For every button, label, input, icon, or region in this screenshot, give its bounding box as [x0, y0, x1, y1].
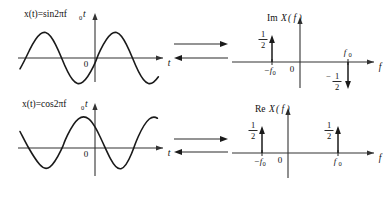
imag-freq-axis-label: f — [379, 62, 383, 72]
imag-value-positive-numerator: 1 — [335, 71, 339, 81]
imag-tick-label-positive-main: f — [344, 47, 348, 57]
imag-impulse-positive-arrowhead — [345, 81, 351, 89]
cosine-function-label-main: x(t)=cos2πf — [22, 99, 67, 110]
sine-origin-label: 0 — [84, 59, 89, 69]
real-origin-label: 0 — [278, 155, 283, 165]
inverse-transform-bottom-arrowhead — [174, 149, 182, 155]
real-function-label-argument: ( f ) — [276, 104, 290, 115]
imag-function-label: Im X ( f ) — [267, 13, 302, 24]
sine-function-label-main: x(t)=sin2πf — [24, 9, 68, 20]
fourier-transform-pair-figure: 0 t x(t)=sin2πf 0 t — [0, 0, 388, 202]
real-impulse-negative-arrowhead — [259, 126, 265, 134]
sine-function-label-tail: t — [83, 9, 86, 19]
real-function-label-variable: X — [268, 104, 276, 114]
sine-time-axis-arrowhead — [156, 55, 163, 60]
cosine-function-label-tail: t — [85, 99, 88, 109]
sine-amplitude-axis-arrowhead — [92, 13, 97, 20]
imaginary-spectrum-panel: 1 2 − 1 2 −f 0 f 0 0 f — [232, 13, 383, 92]
cosine-amplitude-axis-arrowhead — [92, 103, 97, 110]
imag-tick-label-positive: f 0 — [344, 47, 352, 58]
imag-impulse-negative-arrowhead — [269, 35, 275, 43]
real-function-label: Re X ( f ) — [255, 104, 290, 115]
cosine-waveform — [20, 117, 157, 169]
sine-function-label: x(t)=sin2πf 0 t — [24, 9, 86, 21]
forward-transform-top-arrowhead — [220, 41, 228, 47]
imag-tick-label-positive-subscript: 0 — [348, 51, 351, 58]
real-freq-axis-arrowhead — [367, 150, 374, 155]
top-transform-relation — [174, 41, 228, 61]
imag-function-label-prefix: Im — [267, 13, 278, 23]
real-freq-axis-label: f — [379, 153, 383, 163]
sine-time-axis-label: t — [168, 58, 171, 68]
real-tick-label-negative-subscript: 0 — [262, 160, 265, 167]
imag-value-positive-sign: − — [326, 71, 331, 81]
real-value-positive-numerator: 1 — [327, 120, 331, 130]
real-value-positive-denominator: 2 — [327, 131, 331, 141]
imag-value-negative-denominator: 2 — [261, 40, 265, 50]
bottom-transform-relation — [174, 136, 228, 155]
imag-origin-label: 0 — [290, 64, 295, 74]
real-tick-label-positive-subscript: 0 — [338, 160, 341, 167]
real-value-negative-half: 1 2 — [249, 120, 258, 141]
cosine-function-label: x(t)=cos2πf 0 t — [22, 99, 88, 111]
real-value-positive-half: 1 2 — [325, 120, 334, 141]
real-spectrum-panel: 1 2 1 2 −f 0 f 0 0 f — [232, 104, 383, 178]
imag-freq-axis-arrowhead — [367, 59, 374, 64]
real-tick-label-positive: f 0 — [334, 156, 342, 167]
cosine-time-domain-panel: 0 t x(t)=cos2πf 0 t — [18, 99, 171, 176]
imag-value-positive-denominator: 2 — [335, 82, 339, 92]
imag-value-negative-half: 1 2 — [259, 29, 268, 50]
inverse-transform-top-arrowhead — [174, 55, 182, 61]
imag-function-label-argument: ( f ) — [288, 13, 302, 24]
real-tick-label-positive-main: f — [334, 156, 338, 166]
cosine-time-axis-arrowhead — [156, 145, 163, 150]
imag-function-label-variable: X — [280, 13, 288, 23]
real-value-negative-denominator: 2 — [251, 131, 255, 141]
real-tick-label-negative: −f 0 — [254, 156, 266, 167]
sine-time-domain-panel: 0 t x(t)=sin2πf 0 t — [18, 9, 171, 84]
imag-tick-label-negative-subscript: 0 — [272, 69, 275, 76]
real-impulse-positive-arrowhead — [335, 126, 341, 134]
real-value-negative-numerator: 1 — [251, 120, 255, 130]
imag-tick-label-negative: −f 0 — [264, 65, 276, 76]
imag-value-positive-half: − 1 2 — [326, 71, 341, 92]
sine-function-label-subscript: 0 — [79, 14, 82, 21]
imag-value-negative-numerator: 1 — [261, 29, 265, 39]
cosine-time-axis-label: t — [168, 148, 171, 158]
cosine-function-label-subscript: 0 — [81, 104, 84, 111]
cosine-origin-label: 0 — [84, 149, 89, 159]
forward-transform-bottom-arrowhead — [220, 136, 228, 142]
real-function-label-prefix: Re — [255, 104, 266, 114]
